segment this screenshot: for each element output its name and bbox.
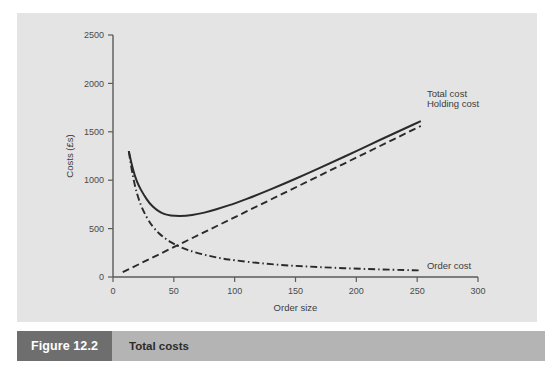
series-line-total-cost [129,121,421,216]
y-tick-label: 1500 [84,127,104,137]
chart-axes [108,35,478,282]
figure-number-badge: Figure 12.2 [17,331,112,361]
x-tick-label: 300 [470,286,485,296]
y-tick-label: 0 [99,272,104,282]
series-label-order-cost: Order cost [427,260,472,271]
figure-caption-text: Total costs [129,331,189,361]
y-tick-label: 1000 [84,175,104,185]
series-line-order-cost [129,151,421,270]
x-tick-label: 100 [227,286,242,296]
y-axis-title: Costs (£s) [64,134,75,177]
x-tick-label: 0 [110,286,115,296]
x-tick-label: 250 [410,286,425,296]
y-tick-label: 500 [89,224,104,234]
chart-panel: 05010015020025030005001000150020002500Or… [17,13,537,322]
series-line-holding-cost [123,126,421,272]
x-axis-title: Order size [274,302,318,313]
line-chart-icon: 05010015020025030005001000150020002500Or… [17,13,537,322]
figure-container: 05010015020025030005001000150020002500Or… [0,0,545,377]
chart-series-group [123,121,421,272]
x-tick-label: 200 [349,286,364,296]
y-tick-label: 2500 [84,30,104,40]
x-tick-label: 150 [288,286,303,296]
y-tick-label: 2000 [84,79,104,89]
series-label-holding-cost: Holding cost [427,98,480,109]
figure-caption-bar: Figure 12.2 Total costs [17,331,545,361]
x-tick-label: 50 [169,286,179,296]
